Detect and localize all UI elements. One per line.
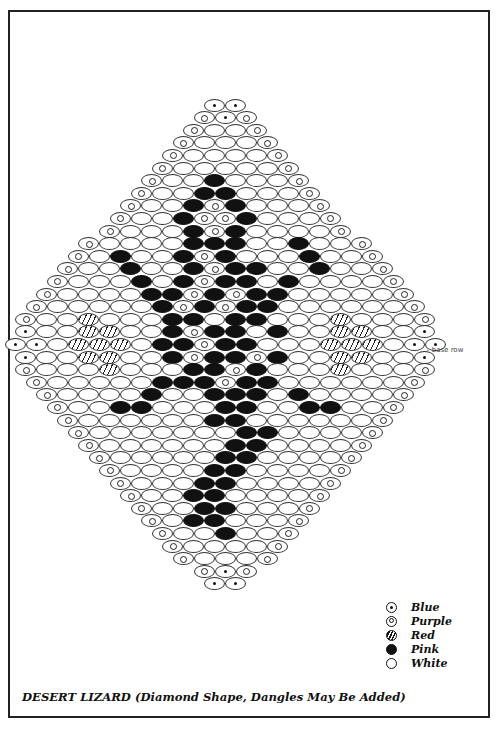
purple-bead <box>183 124 204 137</box>
pink-bead <box>183 199 204 212</box>
white-bead <box>215 426 236 439</box>
filled-bead-icon <box>386 644 397 655</box>
blue-bead <box>5 338 26 351</box>
pink-bead <box>236 426 257 439</box>
color-legend: BluePurpleRedPinkWhite <box>386 600 452 670</box>
white-bead <box>78 414 99 427</box>
white-bead <box>162 237 183 250</box>
purple-bead <box>246 351 267 364</box>
white-bead <box>141 464 162 477</box>
pink-bead <box>204 325 225 338</box>
white-bead <box>257 451 278 464</box>
purple-bead <box>194 250 215 263</box>
purple-bead <box>330 464 351 477</box>
pink-bead <box>267 325 288 338</box>
white-bead <box>99 388 120 401</box>
white-bead <box>141 363 162 376</box>
white-bead <box>120 388 141 401</box>
white-bead <box>162 225 183 238</box>
pink-bead <box>141 288 162 301</box>
purple-bead <box>47 275 68 288</box>
white-bead <box>236 136 257 149</box>
legend-label: Purple <box>411 615 452 628</box>
white-bead <box>141 262 162 275</box>
purple-bead <box>204 262 225 275</box>
purple-bead <box>393 288 414 301</box>
white-bead <box>99 237 120 250</box>
pink-bead <box>236 300 257 313</box>
white-bead <box>299 477 320 490</box>
white-bead <box>120 464 141 477</box>
white-bead <box>351 262 372 275</box>
pink-bead <box>215 275 236 288</box>
purple-bead <box>120 489 141 502</box>
white-bead <box>257 212 278 225</box>
pink-bead <box>204 388 225 401</box>
pink-bead <box>194 300 215 313</box>
white-bead <box>183 464 204 477</box>
white-bead <box>288 414 309 427</box>
white-bead <box>131 250 152 263</box>
purple-bead <box>320 212 341 225</box>
white-bead <box>267 237 288 250</box>
white-bead <box>288 225 309 238</box>
white-bead <box>288 325 309 338</box>
white-bead <box>204 540 225 553</box>
white-bead <box>162 514 183 527</box>
pink-bead <box>183 262 204 275</box>
white-bead <box>393 325 414 338</box>
white-bead <box>141 489 162 502</box>
white-bead <box>173 502 194 515</box>
white-bead <box>288 313 309 326</box>
white-bead <box>183 149 204 162</box>
white-bead <box>341 275 362 288</box>
white-bead <box>236 502 257 515</box>
legend-label: White <box>411 657 448 670</box>
pink-bead <box>141 388 162 401</box>
purple-bead <box>236 111 257 124</box>
white-bead <box>57 288 78 301</box>
pink-bead <box>173 275 194 288</box>
pink-bead <box>225 351 246 364</box>
white-bead <box>288 262 309 275</box>
purple-bead <box>372 262 393 275</box>
pink-bead <box>173 338 194 351</box>
white-bead <box>267 174 288 187</box>
white-bead <box>162 388 183 401</box>
pink-bead <box>131 401 152 414</box>
pink-bead <box>204 363 225 376</box>
pink-bead <box>204 489 225 502</box>
white-bead <box>194 401 215 414</box>
white-bead <box>57 325 78 338</box>
pink-bead <box>152 376 173 389</box>
white-bead <box>194 552 215 565</box>
white-bead <box>78 262 99 275</box>
white-bead <box>330 439 351 452</box>
white-bead <box>236 250 257 263</box>
purple-bead <box>215 376 236 389</box>
white-bead <box>288 464 309 477</box>
pink-bead <box>236 338 257 351</box>
white-bead <box>68 300 89 313</box>
purple-bead <box>351 237 372 250</box>
pink-bead <box>173 376 194 389</box>
white-bead <box>299 212 320 225</box>
purple-bead <box>383 275 404 288</box>
pink-bead <box>309 262 330 275</box>
blue-bead <box>15 351 36 364</box>
legend-label: Blue <box>411 601 439 614</box>
white-bead <box>278 451 299 464</box>
pink-bead <box>152 338 173 351</box>
white-bead <box>309 325 330 338</box>
white-bead <box>246 464 267 477</box>
blue-bead <box>225 577 246 590</box>
purple-bead <box>309 489 330 502</box>
purple-bead <box>78 237 99 250</box>
white-bead <box>330 414 351 427</box>
white-bead <box>131 376 152 389</box>
purple-bead <box>194 338 215 351</box>
purple-bead <box>89 451 110 464</box>
pink-bead <box>246 439 267 452</box>
purple-bead <box>141 174 162 187</box>
purple-bead <box>141 514 162 527</box>
